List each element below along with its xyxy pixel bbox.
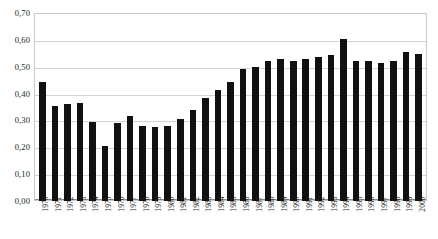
x-axis-tick: 1984: [212, 203, 225, 239]
x-axis-tick: 1995: [350, 203, 363, 239]
bar-chart: 0,700,600,500,400,300,200,100,00 1970197…: [0, 0, 438, 239]
x-axis-tick: 1974: [86, 203, 99, 239]
x-axis-tick: 1983: [199, 203, 212, 239]
x-axis-tick: 1991: [299, 203, 312, 239]
x-axis-tick: 1971: [49, 203, 62, 239]
x-axis-tick: 1972: [61, 203, 74, 239]
x-axis-tick: 1976: [111, 203, 124, 239]
x-axis-tick: 1999: [400, 203, 413, 239]
x-axis-tick: 1980: [161, 203, 174, 239]
y-axis-tick-label: 0,70: [15, 9, 30, 18]
x-axis-tick: 1998: [387, 203, 400, 239]
x-axis-tick: 1992: [312, 203, 325, 239]
y-axis-tick-label: 0,50: [15, 62, 30, 71]
y-axis-tick-label: 0,30: [15, 116, 30, 125]
x-axis-tick: 1975: [99, 203, 112, 239]
plot-area: [34, 13, 427, 201]
x-axis-tick: 1986: [237, 203, 250, 239]
y-axis-tick-label: 0,20: [15, 143, 30, 152]
x-axis-tick-label: 2000: [419, 196, 426, 211]
y-axis-tick-label: 0,60: [15, 36, 30, 45]
y-axis-tick-label: 0,10: [15, 170, 30, 179]
x-axis-tick: 1982: [187, 203, 200, 239]
x-axis-tick: 1987: [249, 203, 262, 239]
y-axis-tick-label: 0,40: [15, 89, 30, 98]
gridline: [35, 95, 426, 96]
x-axis-tick: 1981: [174, 203, 187, 239]
gridline: [35, 121, 426, 122]
gridline: [35, 68, 426, 69]
x-axis-tick: 1989: [274, 203, 287, 239]
x-axis-tick: 1996: [362, 203, 375, 239]
x-axis-tick: 1973: [74, 203, 87, 239]
x-axis-tick: 1994: [337, 203, 350, 239]
y-axis: 0,700,600,500,400,300,200,100,00: [0, 0, 34, 239]
x-axis-labels: 1970197119721973197419751976197719781979…: [34, 203, 427, 239]
x-axis-tick: 1970: [36, 203, 49, 239]
x-axis-tick: 1978: [136, 203, 149, 239]
x-axis-tick: 1988: [262, 203, 275, 239]
x-axis-tick: 1990: [287, 203, 300, 239]
x-axis-tick: 1979: [149, 203, 162, 239]
x-axis-tick: 2000: [412, 203, 425, 239]
x-axis-tick: 1985: [224, 203, 237, 239]
y-axis-tick-label: 0,00: [15, 197, 30, 206]
gridline: [35, 41, 426, 42]
x-axis-tick: 1997: [375, 203, 388, 239]
gridline: [35, 148, 426, 149]
gridline: [35, 175, 426, 176]
x-axis-tick: 1977: [124, 203, 137, 239]
x-axis-tick: 1993: [325, 203, 338, 239]
